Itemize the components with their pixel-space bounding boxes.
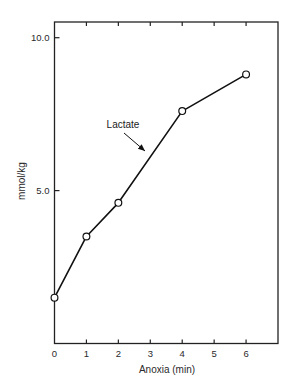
data-point-marker	[243, 71, 250, 78]
data-series	[51, 71, 249, 301]
plot-border	[55, 22, 279, 344]
data-point-marker	[83, 233, 90, 240]
x-tick-label: 3	[148, 348, 153, 359]
x-tick-label: 1	[84, 348, 89, 359]
data-point-marker	[51, 294, 58, 301]
x-tick-label: 5	[211, 348, 216, 359]
x-tick-label: 4	[180, 348, 185, 359]
annotation-arrow	[124, 133, 145, 151]
y-axis-ticks: 5.010.0	[31, 32, 60, 196]
x-tick-label: 2	[116, 348, 121, 359]
data-point-marker	[115, 199, 122, 206]
lactate-line-chart: 0123456 5.010.0 Lactate Anoxia (min) mmo…	[0, 0, 293, 384]
y-axis-label: mmol/kg	[16, 162, 27, 200]
data-point-marker	[179, 108, 186, 115]
x-tick-label: 0	[52, 348, 57, 359]
plot-frame	[55, 22, 279, 344]
annotations: Lactate	[107, 119, 145, 151]
x-tick-label: 6	[243, 348, 248, 359]
y-tick-label: 5.0	[36, 185, 49, 196]
series-line	[55, 74, 247, 297]
y-tick-label: 10.0	[31, 32, 50, 43]
x-axis-ticks: 0123456	[52, 22, 249, 359]
x-axis-label: Anoxia (min)	[139, 364, 195, 375]
series-annotation-label: Lactate	[107, 119, 140, 130]
